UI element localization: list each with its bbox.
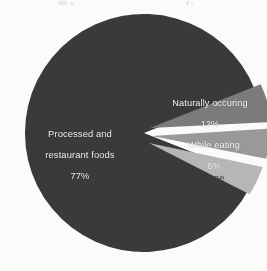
pie-svg-canvas (0, 0, 267, 271)
pie-chart-figure: Processed and restaurant foods 77% Natur… (0, 0, 267, 271)
